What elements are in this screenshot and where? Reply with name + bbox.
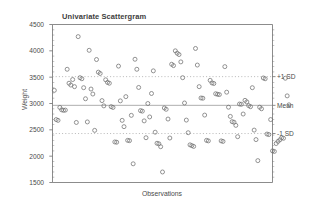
scattergram-chart: Univariate Scattergram Weight Observatio…: [0, 0, 315, 207]
axes-layer: [49, 25, 274, 183]
plot-area: [0, 0, 315, 207]
reference-lines-layer: [53, 77, 276, 134]
data-points-layer: [52, 35, 291, 174]
